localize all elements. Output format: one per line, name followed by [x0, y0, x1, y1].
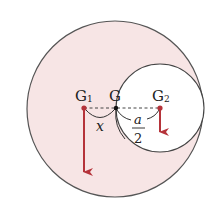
label-x: x [96, 118, 104, 134]
g1-center-dot [81, 105, 86, 110]
hole-disc-diagram: G1 G G2 x a 2 [0, 0, 222, 205]
label-g: G [109, 87, 121, 105]
g-combined-dot [114, 106, 118, 110]
label-a-denominator: 2 [134, 131, 142, 146]
label-a-numerator: a [134, 112, 142, 127]
g2-center-dot [157, 105, 162, 110]
